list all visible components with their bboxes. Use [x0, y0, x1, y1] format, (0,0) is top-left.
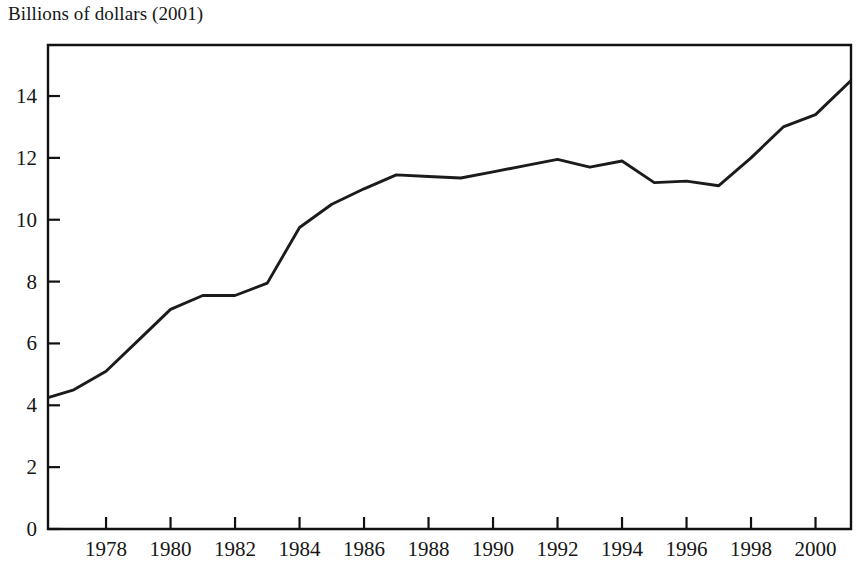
line-chart-plot: 02468101214 1978198019821984198619881990…: [0, 0, 866, 586]
y-tick-label: 8: [27, 270, 38, 294]
plot-frame-border: [48, 45, 851, 529]
y-tick-label: 4: [27, 393, 38, 417]
x-tick-label: 2000: [795, 537, 837, 561]
x-tick-label: 1990: [472, 537, 514, 561]
data-series-group: [48, 81, 851, 398]
x-tick-label: 1998: [730, 537, 772, 561]
data-series-line: [48, 81, 851, 398]
plot-frame: [48, 45, 851, 529]
x-axis-ticks: [106, 517, 815, 529]
y-axis-tick-labels: 02468101214: [16, 84, 38, 541]
y-tick-label: 14: [16, 84, 38, 108]
y-tick-label: 12: [16, 146, 37, 170]
y-tick-label: 0: [27, 517, 38, 541]
x-tick-label: 1986: [343, 537, 385, 561]
x-tick-label: 1978: [85, 537, 127, 561]
y-tick-label: 6: [27, 331, 38, 355]
x-tick-label: 1992: [537, 537, 579, 561]
x-tick-label: 1984: [279, 537, 322, 561]
chart-figure: Billions of dollars (2001) 02468101214 1…: [0, 0, 866, 586]
y-axis-ticks: [48, 96, 60, 529]
x-tick-label: 1980: [150, 537, 192, 561]
y-tick-label: 10: [16, 208, 37, 232]
x-tick-label: 1996: [666, 537, 708, 561]
x-tick-label: 1988: [408, 537, 450, 561]
x-axis-tick-labels: 1978198019821984198619881990199219941996…: [85, 537, 836, 561]
x-tick-label: 1982: [214, 537, 256, 561]
y-tick-label: 2: [27, 455, 38, 479]
x-tick-label: 1994: [601, 537, 644, 561]
